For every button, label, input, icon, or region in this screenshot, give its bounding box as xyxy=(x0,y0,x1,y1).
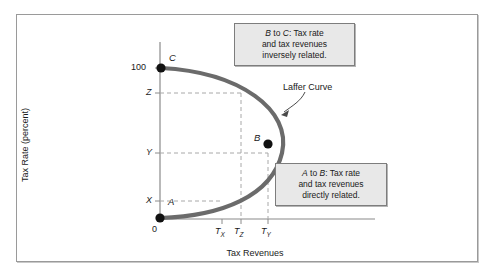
x-tick-label-ty: TY xyxy=(261,226,271,238)
point-label-b: B xyxy=(254,132,260,143)
y-axis-label: Tax Rate (percent) xyxy=(20,93,30,197)
callout-a-to-b: A to B: Tax rate and tax revenues direct… xyxy=(275,163,387,206)
callout-b-to-c-rest: : Tax rate xyxy=(289,28,324,38)
laffer-curve-arrow xyxy=(284,92,305,112)
laffer-curve-annotation: Laffer Curve xyxy=(283,82,332,92)
laffer-curve-figure: Tax Rate (percent) Tax Revenues 100 Z Y … xyxy=(0,0,495,277)
callout-b-to-c-conj: to xyxy=(271,28,283,38)
callout-b-to-c-line3: inversely related. xyxy=(240,50,349,61)
x-tick-label-ty-sub: Y xyxy=(267,231,271,238)
point-c-marker xyxy=(156,63,165,72)
callout-a-to-b-rest: : Tax rate xyxy=(325,168,360,178)
x-axis-label: Tax Revenues xyxy=(195,248,315,258)
x-tick-label-tz: TZ xyxy=(234,226,243,238)
y-tick-label-y: Y xyxy=(146,147,152,157)
point-b-marker xyxy=(263,139,272,148)
y-tick-label-100: 100 xyxy=(131,62,146,72)
callout-b-to-c-line1: B to C: Tax rate xyxy=(240,28,349,39)
origin-label: 0 xyxy=(152,224,157,234)
point-label-a: A xyxy=(168,196,174,207)
point-label-c: C xyxy=(169,52,176,63)
callout-a-to-b-line1: A to B: Tax rate xyxy=(281,168,381,179)
point-a-marker xyxy=(155,213,164,222)
callout-b-to-c-line2: and tax revenues xyxy=(240,39,349,50)
y-tick-label-z: Z xyxy=(146,87,152,97)
callout-b-to-c: B to C: Tax rate and tax revenues invers… xyxy=(234,23,355,66)
callout-a-to-b-line3: directly related. xyxy=(281,190,381,201)
x-tick-label-tz-sub: Z xyxy=(240,231,244,238)
x-tick-label-tx-sub: X xyxy=(221,231,225,238)
y-tick-label-x: X xyxy=(146,195,152,205)
callout-a-to-b-conj: to xyxy=(308,168,320,178)
callout-a-to-b-line2: and tax revenues xyxy=(281,179,381,190)
x-tick-label-tx: TX xyxy=(215,226,225,238)
